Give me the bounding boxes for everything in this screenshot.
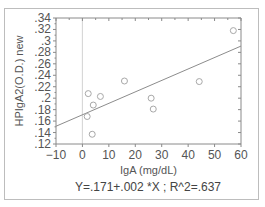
x-tick-label: 60 — [234, 148, 248, 162]
scatter-chart: .12.14.16.18.2.22.24.26.28.3.32.34 −1001… — [0, 0, 265, 207]
data-point — [85, 91, 91, 97]
data-point — [148, 95, 154, 101]
plot-axes — [56, 18, 241, 144]
x-tick-label: 20 — [129, 148, 143, 162]
data-point — [89, 131, 95, 137]
y-tick-label: .34 — [34, 11, 51, 25]
data-point — [150, 106, 156, 112]
x-tick-label: 50 — [208, 148, 222, 162]
data-point — [97, 93, 103, 99]
x-tick-label: 10 — [102, 148, 116, 162]
y-axis-ticks: .12.14.16.18.2.22.24.26.28.3.32.34 — [34, 11, 241, 151]
x-tick-label: 30 — [155, 148, 169, 162]
data-point — [230, 28, 236, 34]
regression-equation: Y=.171+.002 *X ; R^2=.637 — [75, 180, 221, 194]
data-points — [84, 28, 236, 138]
x-axis-ticks: −100102030405060 — [46, 18, 248, 162]
data-point — [90, 102, 96, 108]
fit-line — [56, 46, 241, 126]
x-tick-label: −10 — [46, 148, 67, 162]
x-axis-title: IgA (mg/dL) — [120, 164, 177, 176]
data-point — [196, 79, 202, 85]
x-tick-label: 40 — [181, 148, 195, 162]
regression-line — [56, 46, 241, 126]
data-point — [121, 78, 127, 84]
y-axis-title: HPIgA2(O.D.) new — [13, 35, 25, 126]
data-point — [84, 114, 90, 120]
x-tick-label: 0 — [79, 148, 86, 162]
